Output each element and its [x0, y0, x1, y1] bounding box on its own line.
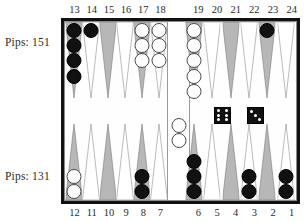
pips-label-top: Pips: 151	[5, 36, 50, 48]
point-number-13: 13	[66, 3, 83, 16]
checker-black-point-3[interactable]	[242, 184, 257, 199]
point-8[interactable]	[133, 22, 150, 200]
point-number-24: 24	[282, 3, 301, 16]
point-number-9: 9	[118, 206, 135, 219]
die-right[interactable]	[247, 107, 264, 124]
point-numbers-bottom-right: 654321	[189, 206, 301, 219]
point-number-4: 4	[226, 206, 245, 219]
checker-black-point-8[interactable]	[134, 184, 149, 199]
die-pip	[217, 118, 220, 121]
point-number-16: 16	[118, 3, 135, 16]
checker-black-point-6[interactable]	[187, 154, 202, 169]
point-triangle-5	[204, 124, 221, 200]
point-number-19: 19	[189, 3, 208, 16]
die-pip	[254, 114, 257, 117]
point-numbers-top-right: 192021222324	[189, 3, 301, 16]
checker-white-point-12[interactable]	[67, 169, 82, 184]
die-pip	[250, 110, 253, 113]
point-triangle-10	[100, 124, 117, 200]
point-number-5: 5	[208, 206, 227, 219]
point-number-20: 20	[208, 3, 227, 16]
die-pip	[225, 109, 228, 112]
point-number-1: 1	[282, 206, 301, 219]
point-number-8: 8	[135, 206, 152, 219]
quadrant-right	[185, 22, 295, 200]
die-pip	[225, 114, 228, 117]
die-pip	[217, 109, 220, 112]
board-inner	[64, 21, 297, 201]
point-9[interactable]	[116, 22, 133, 200]
point-triangle-4	[222, 124, 239, 200]
die-pip	[225, 118, 228, 121]
point-triangle-7	[150, 124, 167, 200]
point-11[interactable]	[83, 22, 100, 200]
point-number-17: 17	[135, 3, 152, 16]
checker-black-point-1[interactable]	[278, 184, 293, 199]
bar-checker-white[interactable]	[171, 133, 186, 148]
point-number-23: 23	[264, 3, 283, 16]
checker-black-point-6[interactable]	[187, 169, 202, 184]
die-pip	[217, 114, 220, 117]
point-number-3: 3	[245, 206, 264, 219]
die-left[interactable]	[214, 107, 231, 124]
point-numbers-top-left: 131415161718	[66, 3, 169, 16]
checker-black-point-1[interactable]	[278, 169, 293, 184]
backgammon-screenshot: Pips: 151 Pips: 131 131415161718 1920212…	[0, 0, 307, 221]
point-triangle-2	[259, 124, 276, 200]
point-number-11: 11	[83, 206, 100, 219]
point-triangle-9	[116, 124, 133, 200]
point-7[interactable]	[150, 22, 167, 200]
checker-black-point-6[interactable]	[187, 184, 202, 199]
point-numbers-bottom-left: 121110987	[66, 206, 169, 219]
point-number-7: 7	[152, 206, 169, 219]
checker-black-point-3[interactable]	[242, 169, 257, 184]
point-number-22: 22	[245, 3, 264, 16]
point-number-2: 2	[264, 206, 283, 219]
point-number-12: 12	[66, 206, 83, 219]
bottom-row-bottom_left	[66, 22, 167, 200]
point-triangle-11	[83, 124, 100, 200]
point-number-18: 18	[152, 3, 169, 16]
point-number-14: 14	[83, 3, 100, 16]
checker-white-point-12[interactable]	[67, 184, 82, 199]
bottom-row-bottom_right	[185, 22, 295, 200]
quadrant-left	[66, 22, 167, 200]
checker-black-point-8[interactable]	[134, 169, 149, 184]
point-1[interactable]	[277, 22, 295, 200]
point-number-6: 6	[189, 206, 208, 219]
board-frame	[61, 18, 300, 204]
point-number-10: 10	[100, 206, 117, 219]
die-pip	[258, 118, 261, 121]
point-10[interactable]	[100, 22, 117, 200]
bar-checker-white[interactable]	[171, 118, 186, 133]
point-12[interactable]	[66, 22, 83, 200]
pips-label-bottom: Pips: 131	[5, 170, 50, 182]
point-number-21: 21	[226, 3, 245, 16]
point-6[interactable]	[185, 22, 203, 200]
point-number-15: 15	[100, 3, 117, 16]
